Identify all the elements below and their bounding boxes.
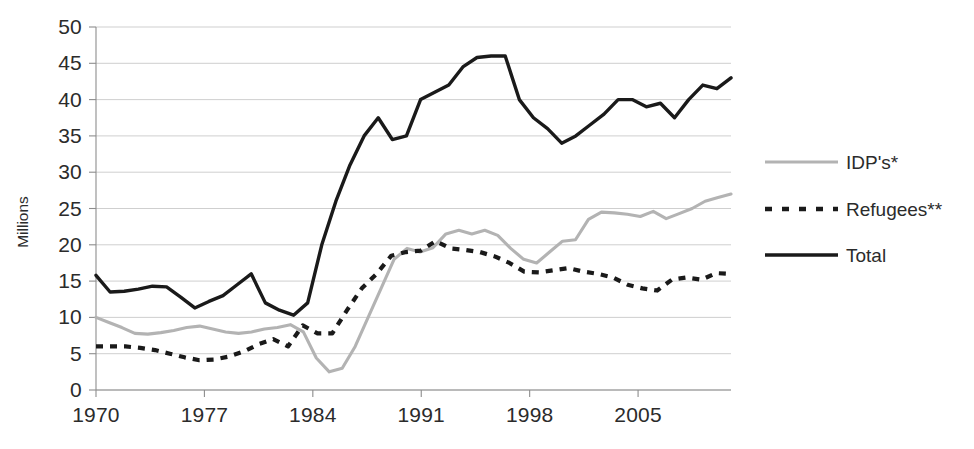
x-axis-tick-labels: 197019771984199119982005 xyxy=(72,403,662,426)
gridlines xyxy=(96,27,731,390)
y-axis-ticks xyxy=(89,27,96,390)
y-axis-tick-label: 15 xyxy=(58,269,82,292)
y-axis-tick-label: 0 xyxy=(70,378,82,401)
y-axis-tick-label: 20 xyxy=(58,233,82,256)
y-axis-title: Millions xyxy=(14,196,31,248)
series-line-idps xyxy=(96,194,731,372)
y-axis-tick-label: 35 xyxy=(58,124,82,147)
x-axis-ticks xyxy=(96,390,638,397)
x-axis-tick-label: 1970 xyxy=(72,403,120,426)
x-axis-tick-label: 1991 xyxy=(397,403,445,426)
y-axis-tick-label: 50 xyxy=(58,15,82,38)
chart-container: 05101520253035404550 1970197719841991199… xyxy=(0,0,974,449)
y-axis-tick-label: 45 xyxy=(58,51,82,74)
legend-item-total[interactable]: Total xyxy=(765,245,886,266)
y-axis-tick-label: 5 xyxy=(70,342,82,365)
y-axis-tick-label: 40 xyxy=(58,88,82,111)
y-axis-tick-label: 25 xyxy=(58,197,82,220)
y-axis-tick-labels: 05101520253035404550 xyxy=(58,15,82,401)
legend-label-refugees: Refugees** xyxy=(846,199,943,220)
series-line-refugees xyxy=(96,241,731,360)
x-axis-tick-label: 1984 xyxy=(289,403,337,426)
legend-item-idps[interactable]: IDP's* xyxy=(765,152,899,173)
y-axis-tick-label: 30 xyxy=(58,160,82,183)
series-line-total xyxy=(96,56,731,315)
legend: IDP's* Refugees** Total xyxy=(765,152,943,266)
legend-label-total: Total xyxy=(846,245,886,266)
x-axis-tick-label: 1998 xyxy=(506,403,554,426)
legend-label-idps: IDP's* xyxy=(846,152,899,173)
x-axis-tick-label: 2005 xyxy=(614,403,662,426)
x-axis-tick-label: 1977 xyxy=(181,403,229,426)
y-axis-tick-label: 10 xyxy=(58,305,82,328)
line-chart: 05101520253035404550 1970197719841991199… xyxy=(0,0,974,449)
legend-item-refugees[interactable]: Refugees** xyxy=(765,199,943,220)
